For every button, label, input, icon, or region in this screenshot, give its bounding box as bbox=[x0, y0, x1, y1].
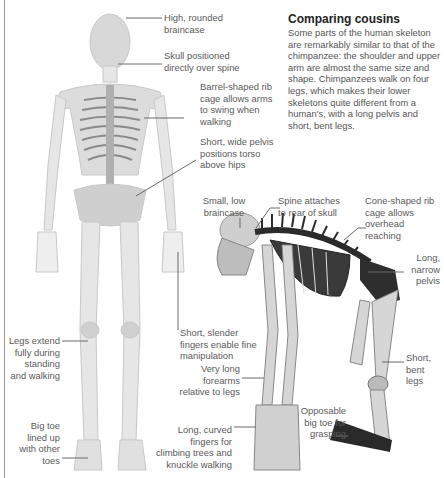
label-human-braincase: High, rounded braincase bbox=[164, 12, 223, 35]
label-chimp-braincase: Small, low braincase bbox=[194, 195, 254, 218]
label-chimp-legs: Short, bent legs bbox=[406, 352, 431, 387]
label-human-ribcage: Barrel-shaped rib cage allows arms to sw… bbox=[200, 81, 272, 127]
human-skeleton bbox=[36, 14, 184, 470]
label-human-skull: Skull positioned directly over spine bbox=[164, 50, 240, 73]
label-human-pelvis: Short, wide pelvis positions torso above… bbox=[200, 136, 273, 171]
label-human-toe: Big toe lined up with other toes bbox=[4, 420, 60, 466]
section-title: Comparing cousins bbox=[288, 12, 400, 26]
label-chimp-pelvis: Long, narrow pelvis bbox=[398, 252, 440, 287]
label-chimp-toe: Opposable big toe for grasping bbox=[270, 405, 346, 440]
label-chimp-fingers: Long, curved fingers for climbing trees … bbox=[146, 424, 232, 470]
label-chimp-forearms: Very long forearms relative to legs bbox=[160, 363, 240, 398]
label-human-legs: Legs extend fully during standing and wa… bbox=[4, 335, 60, 381]
label-human-fingers: Short, slender fingers enable fine manip… bbox=[180, 327, 257, 362]
intro-paragraph: Some parts of the human skeleton are rem… bbox=[288, 27, 442, 131]
label-chimp-ribcage: Cone-shaped rib cage allows overhead rea… bbox=[365, 195, 434, 241]
label-chimp-spine: Spine attaches to rear of skull bbox=[278, 195, 340, 218]
